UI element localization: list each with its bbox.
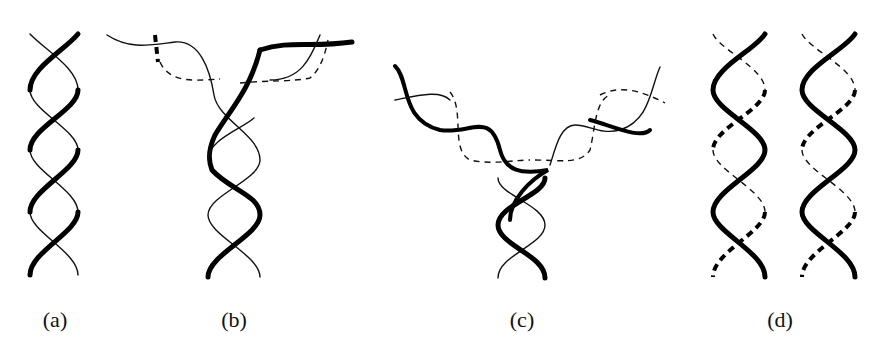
- panel-b-helix: [107, 35, 352, 277]
- panel-c-label: (c): [510, 307, 534, 333]
- panel-b-label: (b): [221, 307, 247, 333]
- panel-c-helix: [395, 66, 665, 278]
- panel-d-label: (d): [767, 307, 793, 333]
- panel-a-label: (a): [43, 307, 67, 333]
- panel-a-helix: [30, 34, 78, 275]
- dna-replication-figure: [0, 0, 885, 352]
- panel-d-left-helix: [713, 34, 765, 277]
- panel-d-right-helix: [802, 34, 855, 277]
